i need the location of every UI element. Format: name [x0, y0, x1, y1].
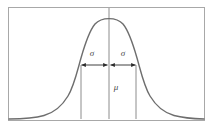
mu-label: μ	[113, 82, 119, 92]
normal-distribution-figure: σ σ μ	[0, 0, 216, 129]
sigma-label-left: σ	[90, 48, 95, 58]
plot-border	[9, 8, 205, 121]
figure-canvas: σ σ μ	[0, 0, 216, 129]
sigma-label-right: σ	[121, 48, 126, 58]
